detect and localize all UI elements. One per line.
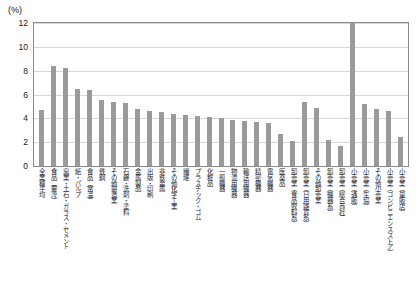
x-axis-category-label: 小売業（通販） xyxy=(350,168,357,209)
bar-slot xyxy=(191,23,203,166)
bar-slot xyxy=(334,23,346,166)
x-label-slot: 一般機器 xyxy=(215,168,227,286)
x-axis-category-label: 金属製品 xyxy=(134,168,141,191)
x-label-slot: 石鹸・洗剤・塗料 xyxy=(119,168,131,286)
bar-slot xyxy=(215,23,227,166)
bar xyxy=(147,111,152,166)
x-label-slot: 食品（常温） xyxy=(83,168,95,286)
x-label-slot: 化粧品 xyxy=(203,168,215,286)
bar xyxy=(183,115,188,166)
x-label-slot: 小売業（通販） xyxy=(347,168,359,286)
bar xyxy=(362,104,367,166)
x-axis-category-label: その他小売業 xyxy=(374,168,381,203)
plot-area xyxy=(33,22,409,167)
x-axis-category-label: 輸送用機器 xyxy=(242,168,249,197)
bar-chart: (%) 121086420 全業種平均食品（要冷）窯業・土石・ガラス・セメント紙… xyxy=(0,0,419,287)
y-axis-tick: 6 xyxy=(23,90,28,99)
x-axis-category-label: 食品（常温） xyxy=(86,168,93,203)
bar xyxy=(326,140,331,166)
x-label-slot: 窯業・土石・ガラス・セメント xyxy=(59,168,71,286)
y-axis-tick: 0 xyxy=(23,162,28,171)
bar xyxy=(111,102,116,166)
x-label-slot: 小売業（量販店） xyxy=(395,168,407,286)
x-label-slot: 物流用機器 xyxy=(227,168,239,286)
x-axis-category-label: 一般機器 xyxy=(218,168,225,191)
x-label-slot: 卸売業（日用雑貨系） xyxy=(299,168,311,286)
x-axis-category-label: 卸売業（日用雑貨系） xyxy=(302,168,309,226)
x-axis-category-label: 電気機器 xyxy=(266,168,273,191)
x-label-slot: 金属製品 xyxy=(131,168,143,286)
bar-slot xyxy=(143,23,155,166)
x-label-slot: 医薬品 xyxy=(275,168,287,286)
x-label-slot: その他小売業 xyxy=(371,168,383,286)
x-axis-category-label: 医薬品 xyxy=(278,168,285,185)
bar xyxy=(135,109,140,166)
x-label-slot: 紙・パルプ xyxy=(71,168,83,286)
x-label-slot: その他卸売業 xyxy=(311,168,323,286)
x-label-slot: 食品（要冷） xyxy=(47,168,59,286)
bar-slot xyxy=(239,23,251,166)
x-label-slot: その他製造業 xyxy=(107,168,119,286)
bar xyxy=(159,112,164,166)
bar xyxy=(39,110,44,166)
bar xyxy=(63,68,68,166)
bar xyxy=(386,111,391,166)
bar-slot xyxy=(323,23,335,166)
bar-slot xyxy=(84,23,96,166)
bar xyxy=(87,90,92,166)
x-axis-category-label: 精密機器 xyxy=(254,168,261,191)
bar-slot xyxy=(167,23,179,166)
x-label-slot: 卸売業（機器系） xyxy=(323,168,335,286)
bar xyxy=(207,117,212,166)
y-axis: 121086420 xyxy=(0,22,33,167)
bar xyxy=(314,108,319,166)
bar xyxy=(350,23,355,166)
bar-slot xyxy=(132,23,144,166)
x-label-slot: その他化学工業 xyxy=(167,168,179,286)
x-label-slot: 小売業（コンビニエンスストア） xyxy=(383,168,395,286)
bars-layer xyxy=(34,23,408,166)
bar-slot xyxy=(251,23,263,166)
x-label-slot: 全業種平均 xyxy=(35,168,47,286)
x-label-slot: 鉄鋼 xyxy=(95,168,107,286)
x-label-slot: 電気機器 xyxy=(263,168,275,286)
x-axis-category-label: 卸売業（機器系） xyxy=(326,168,333,214)
bar-slot xyxy=(60,23,72,166)
x-axis-category-label: 非鉄金属 xyxy=(158,168,165,191)
bar-slot xyxy=(311,23,323,166)
x-label-slot: プラスチック・ゴム xyxy=(191,168,203,286)
x-axis-category-label: 窯業・土石・ガラス・セメント xyxy=(62,168,69,249)
bar xyxy=(338,146,343,166)
x-axis-category-label: 卸売業（食品飲料系） xyxy=(290,168,297,226)
x-axis-category-label: プラスチック・ゴム xyxy=(194,168,201,220)
x-axis-category-label: 石鹸・洗剤・塗料 xyxy=(122,168,129,214)
bar-slot xyxy=(370,23,382,166)
y-axis-unit-label: (%) xyxy=(8,5,22,15)
bar xyxy=(302,102,307,166)
x-axis-category-label: 食品（要冷） xyxy=(50,168,57,203)
bar xyxy=(254,122,259,166)
x-axis-category-label: 紙・パルプ xyxy=(74,168,81,197)
y-axis-tick: 8 xyxy=(23,66,28,75)
bar xyxy=(51,66,56,166)
bar xyxy=(171,114,176,166)
bar xyxy=(123,103,128,166)
bar-slot xyxy=(287,23,299,166)
x-axis-category-label: 出版・印刷 xyxy=(146,168,153,197)
x-label-slot: 輸送用機器 xyxy=(239,168,251,286)
x-label-slot: 小売業（生協） xyxy=(359,168,371,286)
x-axis-category-label: 全業種平均 xyxy=(38,168,45,197)
x-label-slot: 出版・印刷 xyxy=(143,168,155,286)
x-axis-category-label: その他製造業 xyxy=(110,168,117,203)
bar xyxy=(75,89,80,166)
x-axis-category-label: 物流用機器 xyxy=(230,168,237,197)
bar xyxy=(398,137,403,166)
bar-slot xyxy=(155,23,167,166)
bar xyxy=(278,134,283,166)
bar-slot xyxy=(299,23,311,166)
bar-slot xyxy=(203,23,215,166)
bar xyxy=(374,109,379,166)
x-label-slot: 繊維 xyxy=(179,168,191,286)
bar-slot xyxy=(96,23,108,166)
bar-slot xyxy=(36,23,48,166)
